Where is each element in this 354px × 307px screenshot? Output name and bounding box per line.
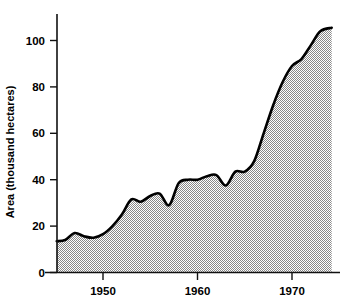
y-tick-label-60: 60 xyxy=(32,127,45,139)
x-tick-label-1960: 1960 xyxy=(185,285,211,297)
x-tick-label-1970: 1970 xyxy=(279,285,305,297)
y-tick-label-20: 20 xyxy=(32,220,45,232)
y-axis-title: Area (thousand hectares) xyxy=(4,85,16,218)
chart-container: 0 20 40 60 80 100 1950 1960 1970 Area (t… xyxy=(0,0,354,307)
y-tick-label-0: 0 xyxy=(39,267,45,279)
y-tick-label-40: 40 xyxy=(32,174,45,186)
y-tick-label-80: 80 xyxy=(32,81,45,93)
x-tick-label-1950: 1950 xyxy=(90,285,116,297)
area-chart: 0 20 40 60 80 100 1950 1960 1970 Area (t… xyxy=(0,0,354,307)
y-tick-label-100: 100 xyxy=(26,35,45,47)
